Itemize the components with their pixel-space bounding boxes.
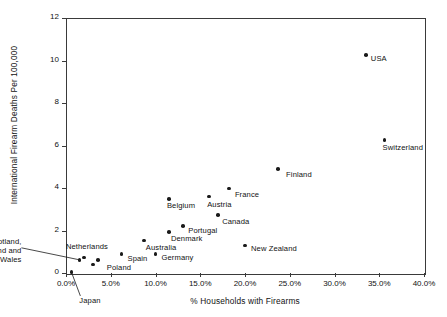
x-tick-0.0%: 0.0% (66, 273, 67, 293)
point-label: Netherlands (66, 242, 108, 251)
x-tick-mark (424, 273, 425, 277)
y-tick-mark (62, 188, 66, 189)
y-tick-4: 4 (0, 188, 66, 189)
x-tick-mark (379, 273, 380, 277)
data-point[interactable] (364, 53, 368, 57)
y-tick-label: 6 (55, 140, 59, 149)
x-tick-label: 35.0% (363, 279, 395, 288)
x-tick-mark (245, 273, 246, 277)
data-point[interactable] (78, 258, 82, 262)
data-point[interactable] (276, 167, 280, 171)
point-label: Canada (222, 217, 249, 226)
point-label: Australia (146, 243, 176, 252)
x-axis-title: % Households with Firearms (66, 296, 424, 306)
data-point[interactable] (96, 258, 100, 262)
y-tick-2: 2 (0, 231, 66, 232)
y-tick-6: 6 (0, 146, 66, 147)
x-tick-label: 40.0% (408, 279, 440, 288)
point-label: Spain (127, 254, 147, 263)
point-label: Poland (107, 263, 131, 272)
x-tick-10.0%: 10.0% (156, 273, 157, 293)
y-tick-mark (62, 103, 66, 104)
scatter-chart: International Firearm Deaths Per 100,000… (0, 0, 447, 317)
data-point[interactable] (70, 270, 74, 274)
y-tick-label: 2 (55, 225, 59, 234)
point-label: Germany (162, 253, 194, 262)
x-tick-label: 0.0% (50, 279, 82, 288)
x-tick-label: 5.0% (95, 279, 127, 288)
x-tick-label: 15.0% (184, 279, 216, 288)
data-point[interactable] (181, 224, 185, 228)
y-tick-mark (62, 61, 66, 62)
data-point[interactable] (154, 252, 158, 256)
x-tick-mark (66, 273, 67, 277)
y-tick-8: 8 (0, 103, 66, 104)
point-label: New Zealand (251, 244, 297, 253)
point-label: Austria (207, 200, 231, 209)
y-tick-12: 12 (0, 18, 66, 19)
y-tick-label: 4 (55, 182, 59, 191)
point-label: Belgium (167, 201, 195, 210)
point-label: Scotland, England and Wales (0, 237, 21, 265)
x-tick-30.0%: 30.0% (335, 273, 336, 293)
y-tick-mark (62, 146, 66, 147)
x-tick-mark (335, 273, 336, 277)
x-tick-40.0%: 40.0% (424, 273, 425, 293)
y-tick-0: 0 (0, 273, 66, 274)
x-tick-label: 30.0% (319, 279, 351, 288)
data-point[interactable] (120, 252, 124, 256)
x-tick-mark (156, 273, 157, 277)
x-tick-label: 25.0% (274, 279, 306, 288)
point-label: USA (371, 54, 387, 63)
data-point[interactable] (91, 263, 95, 267)
point-label: France (235, 190, 259, 199)
point-label: Portugal (188, 226, 217, 235)
y-tick-mark (62, 18, 66, 19)
point-label: Japan (79, 296, 100, 305)
x-tick-15.0%: 15.0% (200, 273, 201, 293)
data-point[interactable] (216, 213, 220, 217)
x-tick-mark (290, 273, 291, 277)
point-label: Finland (286, 170, 312, 179)
y-tick-label: 0 (55, 267, 59, 276)
x-tick-label: 20.0% (229, 279, 261, 288)
data-point[interactable] (227, 187, 231, 191)
point-label: Denmark (171, 234, 203, 243)
y-tick-10: 10 (0, 61, 66, 62)
x-tick-mark (111, 273, 112, 277)
x-tick-label: 10.0% (140, 279, 172, 288)
y-tick-label: 10 (50, 55, 59, 64)
y-tick-label: 8 (55, 97, 59, 106)
x-tick-5.0%: 5.0% (111, 273, 112, 293)
data-point[interactable] (243, 244, 247, 248)
x-tick-25.0%: 25.0% (290, 273, 291, 293)
x-tick-20.0%: 20.0% (245, 273, 246, 293)
point-label: Switzerland (383, 143, 423, 152)
y-tick-mark (62, 231, 66, 232)
x-tick-mark (200, 273, 201, 277)
x-tick-35.0%: 35.0% (379, 273, 380, 293)
y-axis-title: International Firearm Deaths Per 100,000 (9, 0, 19, 317)
y-tick-label: 12 (50, 12, 59, 21)
